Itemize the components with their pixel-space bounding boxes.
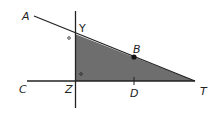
angle-marker-y [68,37,71,40]
label-y: Y [78,22,86,35]
label-b: B [133,43,141,56]
label-a: A [21,10,30,23]
label-t: T [200,85,208,98]
label-z: Z [64,83,73,96]
label-c: C [19,83,27,96]
label-d: D [130,87,138,100]
geometry-diagram: A Y B C Z D T [0,0,216,115]
